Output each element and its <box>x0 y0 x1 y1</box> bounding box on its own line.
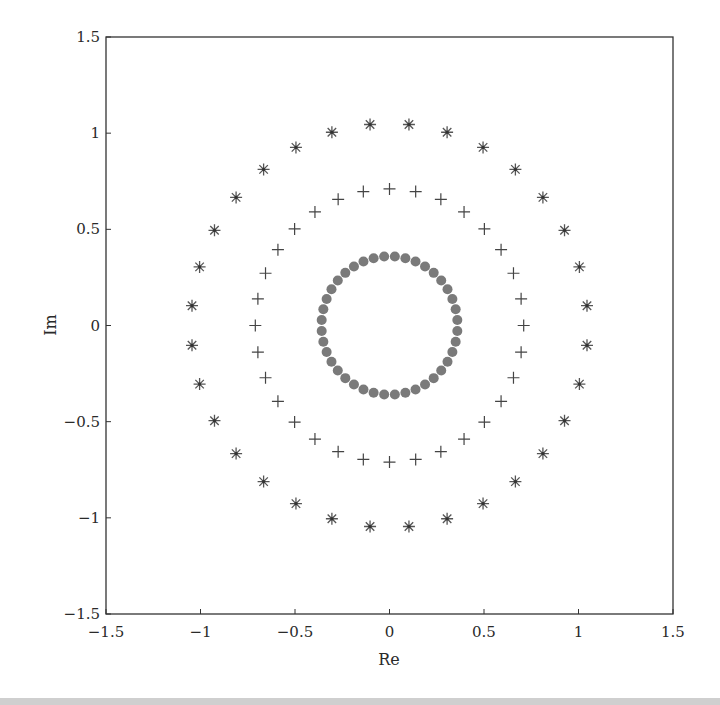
y-axis-label: Im <box>41 314 60 336</box>
middle-ring-series <box>249 183 529 468</box>
x-tick-label: −0.5 <box>277 623 313 641</box>
x-tick-label: 1.5 <box>661 623 685 641</box>
x-tick-label: 1 <box>574 623 584 641</box>
y-tick-label: 0 <box>90 317 100 335</box>
x-tick-label: 0 <box>385 623 395 641</box>
x-axis-label: Re <box>378 650 400 669</box>
y-tick-label: 0.5 <box>76 220 100 238</box>
x-tick-labels: −1.5−1−0.500.511.5 <box>88 623 685 641</box>
inner-ring-series <box>317 251 463 399</box>
page-bottom-rule <box>0 698 720 705</box>
data-points <box>186 119 593 533</box>
x-tick-label: −1.5 <box>88 623 124 641</box>
y-tick-label: −1.5 <box>64 605 100 623</box>
y-tick-label: 1 <box>90 124 100 142</box>
x-tick-label: 0.5 <box>472 623 496 641</box>
outer-ring-series <box>186 119 593 533</box>
y-tick-label: 1.5 <box>76 28 100 46</box>
plot-frame <box>106 37 673 614</box>
y-tick-label: −1 <box>78 509 100 527</box>
scatter-chart: −1.5−1−0.500.511.5 −1.5−1−0.500.511.5 Re… <box>0 0 720 705</box>
x-tick-label: −1 <box>189 623 211 641</box>
y-tick-label: −0.5 <box>64 413 100 431</box>
y-tick-labels: −1.5−1−0.500.511.5 <box>64 28 100 623</box>
axis-ticks <box>106 37 673 614</box>
